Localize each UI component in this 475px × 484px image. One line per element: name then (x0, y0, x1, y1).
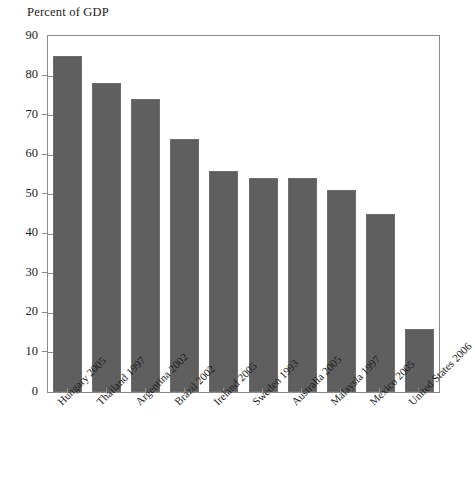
bar (92, 83, 121, 392)
bar (209, 171, 238, 393)
y-axis-tick-mark-inner (48, 313, 53, 314)
y-axis-tick-label: 60 (26, 145, 39, 161)
y-axis: 0102030405060708090 (0, 35, 47, 393)
y-axis-tick-label: 70 (26, 106, 39, 122)
y-axis-tick-mark-inner (48, 76, 53, 77)
y-axis-tick-label: 20 (26, 303, 39, 319)
bar (131, 99, 160, 392)
plot-area (47, 35, 440, 393)
y-axis-tick-mark-inner (48, 115, 53, 116)
bars-layer (48, 36, 439, 392)
y-axis-tick-label: 40 (26, 224, 39, 240)
x-axis-labels: Hungary 2005Thailand 1997Argentina 2002B… (47, 393, 458, 484)
y-axis-tick-mark-inner (48, 352, 53, 353)
y-axis-tick-mark-inner (48, 155, 53, 156)
y-axis-tick-label: 50 (26, 185, 39, 201)
y-axis-tick-mark-inner (48, 234, 53, 235)
y-axis-tick-mark-inner (48, 194, 53, 195)
bar (53, 56, 82, 392)
y-axis-tick-label: 90 (26, 27, 39, 43)
bar (249, 178, 278, 392)
chart-title: Percent of GDP (27, 5, 109, 20)
y-axis-tick-label: 30 (26, 264, 39, 280)
y-axis-tick-label: 0 (32, 383, 38, 399)
y-axis-tick-label: 80 (26, 66, 39, 82)
y-axis-tick-label: 10 (26, 343, 39, 359)
y-axis-tick-mark-inner (48, 273, 53, 274)
